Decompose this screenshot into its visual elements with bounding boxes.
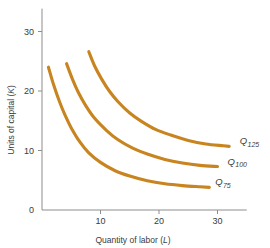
x-tick-label: 10	[95, 216, 105, 226]
axis-title-text: Quantity of labor (	[95, 235, 163, 245]
isoquant-curve-q75	[48, 67, 209, 187]
x-axis-title: Quantity of labor (L)	[95, 235, 170, 245]
y-tick-label: 20	[24, 86, 34, 96]
y-tick-label: 10	[24, 146, 34, 156]
axis-title-text: Units of capital (	[6, 94, 16, 155]
curve-label-subscript: 75	[223, 182, 231, 189]
x-tick-label: 30	[212, 216, 222, 226]
x-tick-label: 20	[154, 216, 164, 226]
curve-label-subscript: 100	[235, 161, 247, 168]
x-axis-ticks: 102030	[95, 210, 222, 226]
curve-label-subscript: 125	[248, 141, 260, 148]
chart-canvas: 0102030 102030 Q75Q100Q125 Quantity of l…	[0, 0, 270, 248]
curve-label-q100: Q100	[227, 156, 247, 169]
y-tick-label: 0	[29, 205, 34, 215]
isoquant-chart: 0102030 102030 Q75Q100Q125 Quantity of l…	[0, 0, 270, 248]
curve-label-base: Q	[227, 156, 235, 167]
axis-title-text-end: )	[168, 235, 171, 245]
axis-title-text-end: )	[6, 85, 16, 88]
curve-label-q75: Q75	[215, 176, 231, 189]
curve-label-base: Q	[240, 135, 248, 146]
isoquant-curves	[48, 52, 229, 188]
y-tick-label: 30	[24, 27, 34, 37]
isoquant-labels: Q75Q100Q125	[215, 135, 259, 189]
curve-label-q125: Q125	[240, 135, 260, 148]
y-axis-title: Units of capital (K)	[6, 85, 16, 155]
y-axis-ticks: 0102030	[24, 27, 42, 216]
